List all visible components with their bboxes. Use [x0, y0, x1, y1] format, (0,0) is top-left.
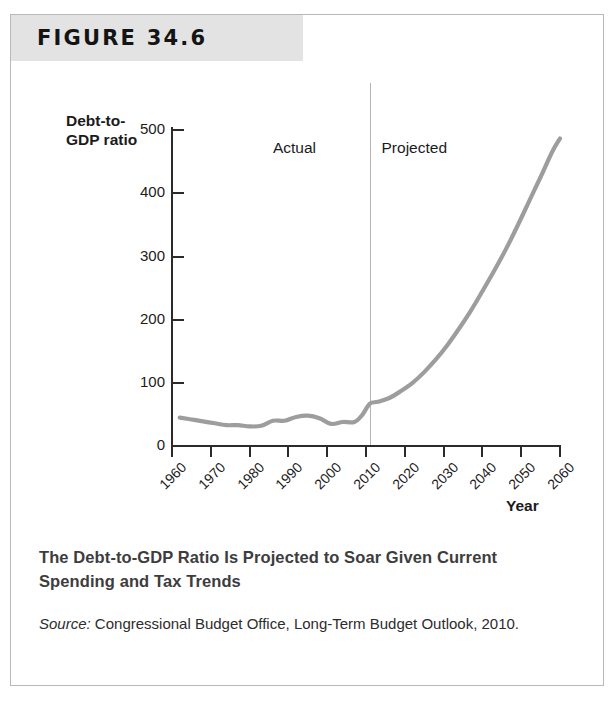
- debt-to-gdp-line: [180, 138, 560, 426]
- figure-number-label: FIGURE 34.6: [37, 26, 207, 50]
- caption-source: Source: Congressional Budget Office, Lon…: [39, 613, 575, 635]
- figure-caption: The Debt-to-GDP Ratio Is Projected to So…: [39, 545, 575, 635]
- chart-plot-area: Debt-to- GDP ratio Year 0100200300400500…: [11, 61, 605, 531]
- series-svg: [11, 61, 605, 531]
- caption-source-label: Source:: [39, 615, 91, 632]
- figure-card: FIGURE 34.6 Debt-to- GDP ratio Year 0100…: [10, 14, 604, 686]
- figure-header-band: FIGURE 34.6: [11, 15, 303, 61]
- caption-source-text: Congressional Budget Office, Long-Term B…: [91, 615, 519, 632]
- caption-title: The Debt-to-GDP Ratio Is Projected to So…: [39, 545, 575, 593]
